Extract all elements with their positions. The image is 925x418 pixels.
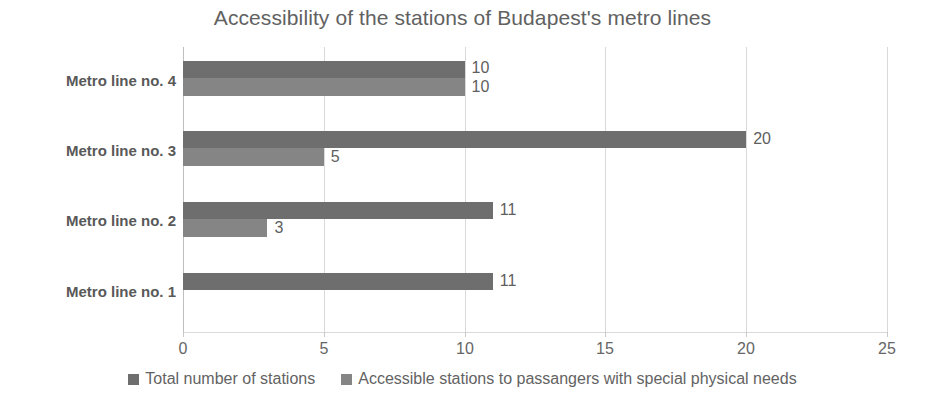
data-label-total-metro-1: 11 — [500, 272, 517, 290]
bar-total-metro-4[interactable] — [183, 61, 465, 78]
chart-legend: Total number of stations Accessible stat… — [0, 370, 925, 388]
legend-swatch-icon-total — [128, 374, 139, 385]
data-label-total-metro-4: 10 — [472, 59, 490, 77]
x-tick-mark-0 — [183, 332, 184, 337]
plot-area: 10 10 20 5 11 3 11 — [183, 47, 887, 332]
x-tick-label-15: 15 — [585, 340, 625, 358]
bar-accessible-metro-3[interactable] — [183, 148, 324, 166]
category-label-metro-4: Metro line no. 4 — [18, 72, 176, 89]
data-label-total-metro-3: 20 — [753, 130, 771, 148]
chart-title: Accessibility of the stations of Budapes… — [0, 6, 925, 30]
bar-total-metro-1[interactable] — [183, 273, 493, 290]
gridline-20 — [746, 47, 747, 332]
bar-accessible-metro-4[interactable] — [183, 78, 465, 96]
data-label-accessible-metro-2: 3 — [274, 219, 283, 237]
x-axis-line — [183, 332, 888, 333]
gridline-15 — [605, 47, 606, 332]
category-label-metro-1: Metro line no. 1 — [18, 283, 176, 300]
legend-label-total: Total number of stations — [145, 370, 315, 388]
legend-swatch-icon-accessible — [341, 374, 352, 385]
bar-total-metro-3[interactable] — [183, 131, 746, 148]
legend-item-total[interactable]: Total number of stations — [128, 370, 315, 388]
gridline-25 — [887, 47, 888, 332]
x-tick-label-10: 10 — [445, 340, 485, 358]
x-tick-label-5: 5 — [304, 340, 344, 358]
x-tick-mark-15 — [605, 332, 606, 337]
x-tick-mark-10 — [465, 332, 466, 337]
x-tick-label-25: 25 — [867, 340, 907, 358]
x-tick-mark-20 — [746, 332, 747, 337]
data-label-accessible-metro-4: 10 — [472, 78, 490, 96]
legend-label-accessible: Accessible stations to passangers with s… — [358, 370, 796, 388]
category-label-metro-2: Metro line no. 2 — [18, 212, 176, 229]
x-tick-mark-5 — [324, 332, 325, 337]
data-label-total-metro-2: 11 — [500, 201, 517, 219]
legend-item-accessible[interactable]: Accessible stations to passangers with s… — [341, 370, 796, 388]
category-label-metro-3: Metro line no. 3 — [18, 142, 176, 159]
bar-chart: Accessibility of the stations of Budapes… — [0, 0, 925, 418]
data-label-accessible-metro-3: 5 — [331, 148, 340, 166]
x-tick-label-0: 0 — [163, 340, 203, 358]
bar-accessible-metro-2[interactable] — [183, 219, 267, 237]
x-tick-label-20: 20 — [726, 340, 766, 358]
x-tick-mark-25 — [887, 332, 888, 337]
bar-total-metro-2[interactable] — [183, 202, 493, 219]
